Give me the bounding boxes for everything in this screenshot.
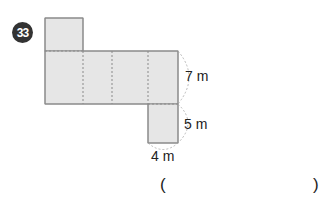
answer-close-paren: ) — [313, 175, 319, 195]
dimension-label-depth: 5 m — [184, 116, 207, 132]
problem-33: 33 7 m 5 m 4 m ( ) — [0, 0, 333, 207]
answer-open-paren: ( — [160, 175, 166, 195]
net-face-bottom — [148, 104, 178, 143]
dimension-label-width: 4 m — [151, 148, 174, 164]
answer-blank[interactable] — [175, 176, 305, 196]
dimension-label-height: 7 m — [185, 68, 208, 84]
net-face-top — [45, 18, 83, 51]
